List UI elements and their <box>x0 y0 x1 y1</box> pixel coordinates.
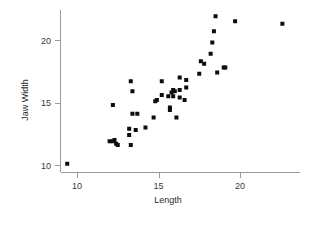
data-point <box>171 94 175 98</box>
data-point <box>134 128 138 132</box>
data-point <box>173 89 177 93</box>
data-point <box>160 79 164 83</box>
data-point <box>127 127 131 131</box>
y-axis-group: 101520 <box>41 10 61 172</box>
data-point <box>160 93 164 97</box>
data-point <box>215 71 219 75</box>
data-points-group <box>65 14 284 166</box>
data-point <box>280 22 284 26</box>
y-tick-group: 101520 <box>41 36 61 171</box>
data-point <box>183 98 187 102</box>
x-tick-label: 10 <box>72 181 82 191</box>
data-point <box>143 126 147 130</box>
data-point <box>197 72 201 76</box>
scatter-plot-figure: 101520 101520 Length Jaw Width <box>0 0 310 225</box>
data-point <box>184 78 188 82</box>
data-point <box>129 143 133 147</box>
x-tick-group: 101520 <box>72 173 245 192</box>
data-point <box>178 76 182 80</box>
plot-canvas: 101520 101520 Length Jaw Width <box>0 0 310 225</box>
x-axis-group: 101520 <box>61 173 301 192</box>
y-axis-title: Jaw Width <box>20 79 30 121</box>
data-point <box>174 116 178 120</box>
data-point <box>166 94 170 98</box>
data-point <box>209 52 213 56</box>
y-tick-label: 20 <box>41 36 51 46</box>
data-point <box>152 116 156 120</box>
y-tick-label: 15 <box>41 98 51 108</box>
data-point <box>130 89 134 93</box>
data-point <box>129 79 133 83</box>
y-tick-label: 10 <box>41 161 51 171</box>
data-point <box>130 112 134 116</box>
data-point <box>178 88 182 92</box>
data-point <box>155 98 159 102</box>
x-axis-title: Length <box>154 195 182 205</box>
data-point <box>65 162 69 166</box>
data-point <box>111 103 115 107</box>
x-tick-label: 15 <box>153 181 163 191</box>
data-point <box>202 62 206 66</box>
data-point <box>184 86 188 90</box>
data-point <box>223 66 227 70</box>
x-tick-label: 20 <box>235 181 245 191</box>
data-point <box>214 14 218 18</box>
data-point <box>210 41 214 45</box>
data-point <box>233 19 237 23</box>
data-point <box>127 133 131 137</box>
data-point <box>178 96 182 100</box>
data-point <box>168 106 172 110</box>
data-point <box>212 29 216 33</box>
data-point <box>112 138 116 142</box>
data-point <box>135 112 139 116</box>
data-point <box>116 143 120 147</box>
